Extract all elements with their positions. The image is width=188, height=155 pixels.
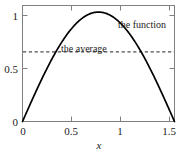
y-tick-label-0-5: 0.5 xyxy=(0,64,18,75)
x-tick-label-1-5: 1.5 xyxy=(162,126,176,137)
chart-figure: 0 0.5 1 0 0.5 1 1.5 x the function the a… xyxy=(0,0,188,155)
x-tick-label-1: 1 xyxy=(117,126,123,137)
x-tick-label-0: 0 xyxy=(20,126,26,137)
y-tick-label-1: 1 xyxy=(2,11,18,22)
x-axis-title: x xyxy=(97,140,102,151)
x-tick-label-0-5: 0.5 xyxy=(64,126,78,137)
function-annotation-label: the function xyxy=(118,20,166,30)
average-annotation-label: the average xyxy=(61,44,107,54)
y-tick-label-0: 0 xyxy=(2,117,18,128)
